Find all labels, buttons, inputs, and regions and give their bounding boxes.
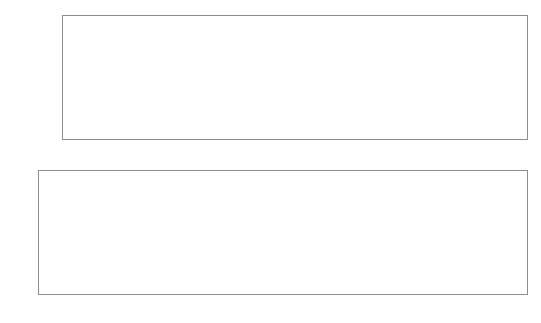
chart-page: [0, 0, 541, 323]
bottom-histogram-bars: [39, 171, 527, 294]
top-plot-frame: [62, 15, 528, 140]
bottom-histogram-panel: [0, 168, 541, 323]
top-histogram-panel: [0, 12, 541, 162]
bottom-plot-frame: [38, 170, 528, 295]
top-histogram-bars: [63, 16, 527, 139]
